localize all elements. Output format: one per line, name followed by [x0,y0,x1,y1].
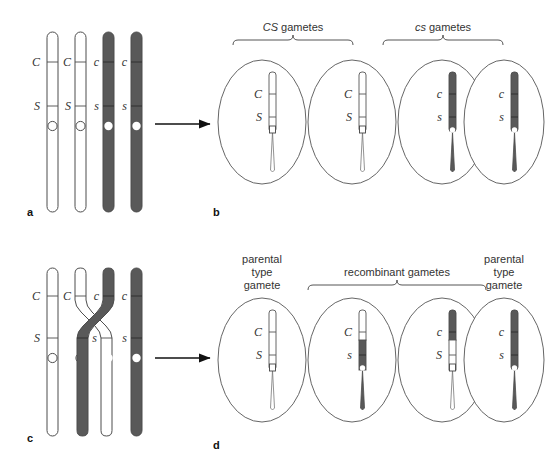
panel-b-bracket-CS-italic: CS [263,21,279,33]
panel-a-allele-c-4: c [122,55,128,69]
panel-b-gamete-3-top-allele: c [437,87,443,101]
panel-d-gamete-2-bottom-allele: s [347,348,352,362]
panel-a-chromatid-3 [103,32,114,212]
panel-b-gamete-4: c s [464,60,544,184]
panel-b-gamete-2-top-allele: C [344,87,353,101]
figure-root: C S C S c s c s a [0,0,550,464]
panel-c-allele-S-1: S [34,331,40,345]
panel-d-bracket-recombinant [308,280,486,290]
panel-a-allele-C-2: C [63,55,72,69]
panel-d-gamete-1-top-allele: C [254,325,263,339]
panel-a-allele-S-2: S [65,99,71,113]
panel-b-bracket-cs-italic: cs [415,21,427,33]
panel-a-chromatid-2 [75,32,86,212]
panel-c: C S C s c c s c [27,268,142,444]
panel-a-allele-s-4: s [122,99,127,113]
panel-d-gamete-4: c s [464,298,544,422]
panel-b-bracket-CS-plain: gametes [278,21,324,33]
panel-b-letter: b [213,206,220,218]
panel-a-chromatid-1 [47,32,58,212]
panel-d-gamete-3-top-allele: c [437,325,443,339]
panel-b-gamete-1-top-allele: C [254,87,263,101]
panel-d-gamete-1: C S [218,298,306,422]
panel-d-label-parental-right: parental type gamete [484,253,524,291]
panel-d-letter: d [213,439,220,451]
panel-b-gamete-2: C S [308,60,396,184]
panel-d-gamete-2-top-allele: C [344,325,353,339]
panel-d-label-parental-left-line3: gamete [244,279,281,291]
panel-b-bracket-CS-label: CS gametes [263,21,324,33]
panel-c-allele-s-4: s [122,331,127,345]
panel-d-label-parental-right-line2: type [494,266,515,278]
panel-d-label-parental-left: parental type gamete [242,253,282,291]
panel-d-gamete-1-bottom-allele: S [256,348,262,362]
panel-b-gamete-4-bottom-allele: s [499,110,504,124]
panel-c-chromatid-1 [47,268,58,436]
panel-d-label-recombinant: recombinant gametes [344,266,450,278]
panel-a: C S C S c s c s a [27,32,142,218]
panel-d-label-parental-right-line3: gamete [486,279,523,291]
panel-d-label-parental-left-line2: type [252,266,273,278]
panel-d-gamete-4-bottom-allele: s [499,348,504,362]
panel-d-gamete-3-bottom-allele: S [436,348,442,362]
panel-b-gamete-4-top-allele: c [499,87,505,101]
panel-a-chromatid-4 [131,32,142,212]
panel-a-allele-S-1: S [34,99,40,113]
panel-d-label-parental-left-line1: parental [242,253,282,265]
panel-c-letter: c [27,432,33,444]
panel-b-gamete-1-bottom-allele: S [256,110,262,124]
panel-b-bracket-cs-plain: gametes [426,21,472,33]
panel-c-allele-C-1: C [32,289,41,303]
panel-b: CS gametes cs gametes C S C S [213,21,544,218]
panel-b-gamete-2-bottom-allele: S [346,110,352,124]
panel-b-bracket-cs [383,35,503,45]
panel-d-label-parental-right-line1: parental [484,253,524,265]
panel-a-allele-s-3: s [94,99,99,113]
panel-c-allele-C-2: C [63,289,72,303]
panel-b-bracket-cs-label: cs gametes [415,21,472,33]
panel-c-chromatid-4 [131,268,142,436]
panel-a-allele-C-1: C [32,55,41,69]
panel-d: parental type gamete recombinant gametes… [213,253,544,451]
panel-b-bracket-CS [233,35,353,45]
panel-b-gamete-3-bottom-allele: s [437,110,442,124]
panel-c-allele-c-4: c [122,289,128,303]
panel-d-gamete-4-top-allele: c [499,325,505,339]
panel-b-gamete-1: C S [218,60,306,184]
panel-a-letter: a [27,206,34,218]
panel-a-allele-c-3: c [94,55,100,69]
panel-c-allele-c-3: c [94,289,100,303]
panel-c-allele-s-2: s [92,331,97,345]
panel-d-gamete-2: C s [308,298,396,422]
